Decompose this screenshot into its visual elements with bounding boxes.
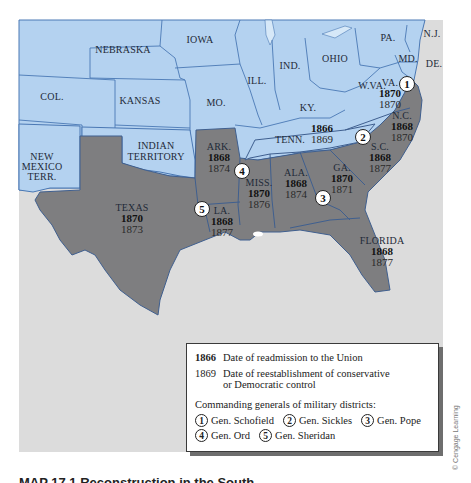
label-colorado: COL. (40, 91, 63, 102)
alabama-restored: 1874 (285, 188, 308, 200)
label-ohio: OHIO (322, 53, 348, 64)
svg-text:1: 1 (404, 78, 410, 90)
label-iowa: IOWA (187, 34, 214, 45)
label-pennsylvania: PA. (381, 32, 396, 43)
legend-control-text: Date of reestablishment of conservative … (223, 368, 390, 390)
general-name: Gen. Sickles (299, 415, 352, 426)
label-new-jersey: N.J. (424, 28, 441, 39)
general-name: Gen. Sheridan (275, 430, 335, 441)
mississippi-restored: 1876 (248, 198, 271, 210)
legend-general-2: 2Gen. Sickles (283, 414, 352, 427)
florida-restored: 1877 (371, 256, 394, 268)
legend-generals-title: Commanding generals of military district… (195, 399, 438, 410)
label-indiana: IND. (279, 60, 300, 71)
legend-general-3: 3Gen. Pope (361, 414, 421, 427)
lake-pontchartrain (253, 232, 263, 237)
label-illinois: ILL. (248, 75, 267, 86)
label-indian-territory-1: INDIAN (138, 140, 175, 151)
georgia-restored: 1871 (331, 183, 353, 195)
district-marker-3: 3 (316, 191, 331, 206)
virginia-restored: 1870 (379, 98, 402, 110)
legend-readmission-row: 1866 Date of readmission to the Union (195, 352, 438, 363)
north-carolina-restored: 1870 (391, 131, 414, 143)
district-marker-4: 4 (235, 164, 250, 179)
district-number-icon: 5 (259, 429, 272, 442)
svg-text:4: 4 (239, 165, 245, 177)
label-maryland: MD. (398, 53, 417, 64)
legend-control-text-line2: or Democratic control (223, 379, 316, 390)
legend-control-text-line1: Date of reestablishment of conservative (223, 368, 390, 379)
south-carolina-restored: 1877 (369, 162, 392, 174)
legend-control-year: 1869 (195, 368, 223, 379)
map-legend: 1866 Date of readmission to the Union 18… (186, 343, 439, 452)
legend-generals-row-1: 1Gen. Schofield 2Gen. Sickles 3Gen. Pope (195, 414, 438, 427)
label-kentucky: KY. (300, 102, 316, 113)
legend-readmission-text: Date of readmission to the Union (223, 352, 363, 363)
label-new-mexico-3: TERR. (27, 171, 56, 182)
copyright-credit: © Cengage Learning (452, 405, 459, 470)
label-tennessee: TENN. (275, 134, 305, 145)
legend-generals-row-2: 4Gen. Ord 5Gen. Sheridan (195, 429, 438, 442)
svg-text:5: 5 (199, 203, 205, 215)
general-name: Gen. Pope (377, 415, 421, 426)
district-marker-2: 2 (356, 130, 371, 145)
district-marker-1: 1 (400, 77, 415, 92)
svg-text:2: 2 (360, 131, 366, 143)
district-number-icon: 1 (195, 414, 208, 427)
svg-text:3: 3 (320, 192, 326, 204)
tennessee-restored: 1869 (311, 133, 334, 145)
district-number-icon: 3 (361, 414, 374, 427)
legend-readmission-year: 1866 (195, 352, 223, 363)
general-name: Gen. Ord (211, 430, 250, 441)
louisiana-restored: 1877 (211, 226, 234, 238)
label-nebraska: NEBRASKA (95, 44, 151, 55)
district-marker-5: 5 (195, 202, 210, 217)
label-indian-territory-2: TERRITORY (127, 151, 184, 162)
arkansas-restored: 1874 (208, 162, 231, 174)
legend-control-row: 1869 Date of reestablishment of conserva… (195, 368, 438, 390)
general-name: Gen. Schofield (211, 415, 274, 426)
label-delaware: DE. (426, 58, 442, 69)
legend-general-1: 1Gen. Schofield (195, 414, 274, 427)
legend-general-5: 5Gen. Sheridan (259, 429, 335, 442)
legend-general-4: 4Gen. Ord (195, 429, 250, 442)
district-number-icon: 4 (195, 429, 208, 442)
texas-restored: 1873 (121, 223, 144, 235)
map-caption: MAP 17.1 Reconstruction in the South (19, 475, 254, 483)
label-missouri: MO. (206, 97, 225, 108)
district-number-icon: 2 (283, 414, 296, 427)
label-kansas: KANSAS (119, 95, 160, 106)
